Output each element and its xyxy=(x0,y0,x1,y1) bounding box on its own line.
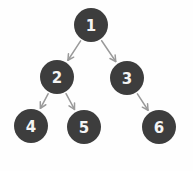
tree-node-3[interactable]: 3 xyxy=(110,61,144,95)
tree-node-label: 1 xyxy=(86,17,96,35)
tree-node-5[interactable]: 5 xyxy=(67,110,101,144)
tree-node-label: 2 xyxy=(52,69,62,87)
tree-node-1[interactable]: 1 xyxy=(74,8,108,42)
tree-edge xyxy=(66,94,75,110)
tree-edge xyxy=(102,41,116,62)
tree-diagram-canvas: 123456 xyxy=(0,0,193,171)
tree-edge xyxy=(137,94,148,110)
tree-node-4[interactable]: 4 xyxy=(14,109,48,143)
tree-node-2[interactable]: 2 xyxy=(40,60,74,94)
tree-node-label: 6 xyxy=(154,119,164,137)
tree-node-label: 4 xyxy=(26,118,36,136)
tree-node-label: 5 xyxy=(79,119,89,137)
node-layer: 123456 xyxy=(14,8,176,144)
tree-edge xyxy=(40,94,48,109)
tree-node-label: 3 xyxy=(122,70,132,88)
tree-node-6[interactable]: 6 xyxy=(142,110,176,144)
tree-edge-line xyxy=(102,41,116,62)
tree-diagram: 123456 xyxy=(0,0,193,171)
tree-edge xyxy=(68,41,81,60)
